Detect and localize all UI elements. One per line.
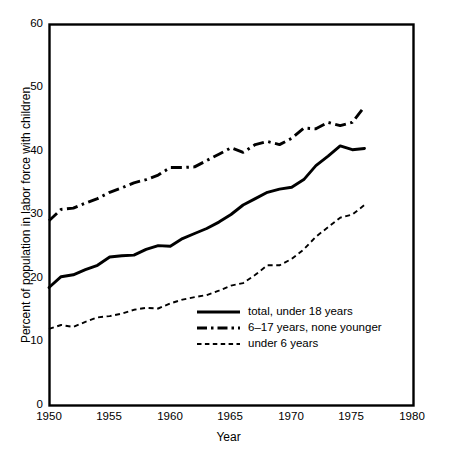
legend-label-under-6: under 6 years bbox=[248, 338, 318, 350]
y-tick-0: 0 bbox=[17, 399, 43, 411]
x-tick-1980: 1980 bbox=[391, 411, 433, 423]
y-tick-60: 60 bbox=[17, 18, 43, 30]
y-axis-label: Percent of population in labor force wit… bbox=[19, 85, 33, 345]
legend-label-total-under-18: total, under 18 years bbox=[248, 306, 353, 318]
chart-figure: 60 50 40 30 20 10 0 1950 1955 1960 1965 … bbox=[0, 0, 457, 458]
chart-canvas bbox=[0, 0, 457, 458]
series-line-total-under-18 bbox=[49, 146, 365, 288]
x-tick-1965: 1965 bbox=[209, 411, 251, 423]
x-tick-1975: 1975 bbox=[330, 411, 372, 423]
legend-label-6-17-none-younger: 6–17 years, none younger bbox=[248, 322, 382, 334]
x-tick-1970: 1970 bbox=[270, 411, 312, 423]
x-axis-label: Year bbox=[0, 430, 457, 444]
x-tick-1950: 1950 bbox=[28, 411, 70, 423]
x-tick-1960: 1960 bbox=[149, 411, 191, 423]
x-tick-1955: 1955 bbox=[88, 411, 130, 423]
